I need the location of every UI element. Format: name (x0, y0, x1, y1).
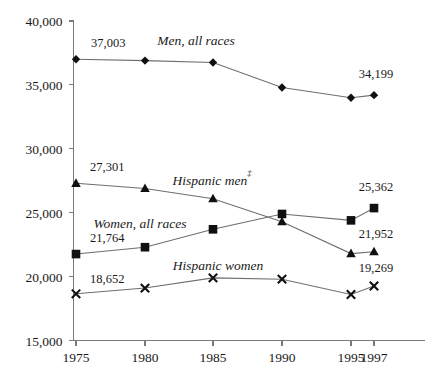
data-point-marker (209, 225, 218, 234)
y-axis-tick-label: 30,000 (25, 142, 62, 157)
y-axis-tick-label: 15,000 (25, 334, 62, 349)
data-point-value-label: 27,301 (90, 160, 124, 174)
data-point-marker (370, 204, 379, 213)
data-point-value-label: 34,199 (359, 67, 393, 81)
data-point-value-label: 37,003 (91, 36, 125, 50)
series-inline-label: Hispanic women (172, 258, 264, 273)
data-point-marker (278, 210, 287, 219)
x-axis-tick-label: 1975 (63, 350, 90, 365)
y-axis-tick-label: 35,000 (25, 78, 62, 93)
x-axis-tick-label: 1997 (361, 350, 388, 365)
y-axis-tick-label: 20,000 (25, 270, 62, 285)
x-axis-tick-label: 1985 (200, 350, 227, 365)
line-chart: 40,00035,00030,00025,00020,00015,000 197… (0, 0, 441, 388)
data-point-value-label: 19,269 (359, 261, 393, 275)
data-point-value-label: 21,952 (359, 227, 393, 241)
chart-container: 40,00035,00030,00025,00020,00015,000 197… (0, 0, 441, 388)
x-axis-tick-label: 1990 (269, 350, 296, 365)
data-point-marker (347, 216, 356, 225)
y-axis-tick-label: 40,000 (25, 14, 62, 29)
data-point-marker (141, 243, 150, 252)
x-axis-tick-label: 1980 (132, 350, 159, 365)
data-point-marker (72, 250, 81, 259)
series-inline-label: Men, all races (156, 33, 235, 48)
series-inline-label: Women, all races (94, 216, 187, 231)
data-point-value-label: 18,652 (90, 272, 124, 286)
y-axis-tick-label: 25,000 (25, 206, 62, 221)
data-point-value-label: 21,764 (90, 231, 125, 245)
data-point-value-label: 25,362 (359, 180, 393, 194)
